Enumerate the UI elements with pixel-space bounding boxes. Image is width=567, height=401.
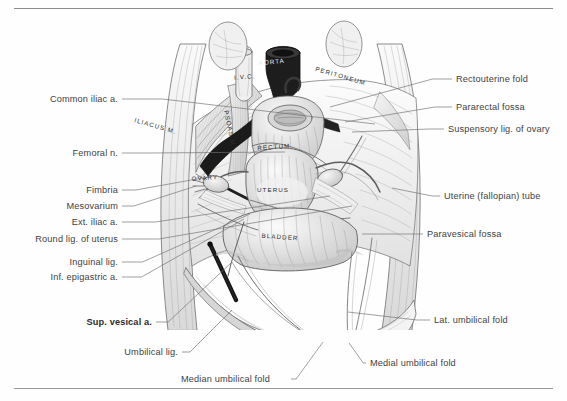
callout-label-mesovarium: Mesovarium: [66, 201, 118, 211]
callout-label-suspensory-lig-ovary: Suspensory lig. of ovary: [448, 124, 550, 134]
callout-label-lat-umbilical-fold: Lat. umbilical fold: [434, 315, 508, 325]
callout-label-fimbria: Fimbria: [86, 185, 118, 195]
callout-label-round-lig-of-uterus: Round lig. of uterus: [35, 234, 118, 244]
callout-label-pararectal-fossa: Pararectal fossa: [456, 102, 525, 112]
callout-label-common-iliac-a: Common iliac a.: [50, 94, 118, 104]
engraved-label-ivc: I.V.C.: [234, 72, 256, 80]
anatomical-plate: AORTAI.V.C.PERITONEUMILIACUS M.PSOAS M.R…: [0, 0, 567, 401]
callout-label-sup-vesical-a: Sup. vesical a.: [86, 317, 152, 327]
callout-label-rectouterine-fold: Rectouterine fold: [456, 74, 528, 84]
callout-label-uterine-fallopian-tube: Uterine (fallopian) tube: [444, 191, 541, 201]
engraved-label-uterus: UTERUS: [257, 186, 289, 193]
callout-label-femoral-n: Femoral n.: [73, 148, 118, 158]
callout-label-inf-epigastric-a: Inf. epigastric a.: [50, 272, 118, 282]
callout-label-inguinal-lig: Inguinal lig.: [70, 257, 118, 267]
callout-label-medial-umbilical-fold: Medial umbilical fold: [370, 358, 456, 368]
callout-label-median-umbilical-fold: Median umbilical fold: [181, 374, 270, 384]
callout-label-umbilical-lig: Umbilical lig.: [124, 347, 178, 357]
callout-label-paravesical-fossa: Paravesical fossa: [427, 229, 502, 239]
callout-label-ext-iliac-a: Ext. iliac a.: [72, 217, 118, 227]
